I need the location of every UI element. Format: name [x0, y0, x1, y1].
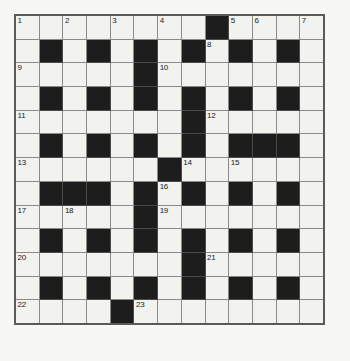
crossword-cell[interactable]	[87, 158, 111, 182]
crossword-cell[interactable]	[205, 229, 229, 253]
crossword-cell[interactable]	[63, 276, 87, 300]
crossword-cell[interactable]	[39, 158, 63, 182]
crossword-cell[interactable]	[110, 158, 134, 182]
crossword-cell[interactable]	[276, 252, 300, 276]
crossword-cell[interactable]	[39, 63, 63, 87]
crossword-cell[interactable]	[63, 300, 87, 324]
crossword-cell[interactable]	[205, 134, 229, 158]
crossword-cell[interactable]	[15, 39, 39, 63]
crossword-cell[interactable]	[63, 252, 87, 276]
crossword-cell[interactable]	[63, 158, 87, 182]
crossword-cell[interactable]	[300, 276, 324, 300]
crossword-cell[interactable]	[205, 158, 229, 182]
crossword-cell[interactable]	[63, 39, 87, 63]
crossword-cell[interactable]	[300, 63, 324, 87]
crossword-cell[interactable]	[39, 300, 63, 324]
crossword-grid[interactable]: 1234567891011121314151617181920212223	[14, 14, 325, 325]
crossword-cell[interactable]	[205, 276, 229, 300]
crossword-cell[interactable]	[110, 229, 134, 253]
crossword-cell[interactable]	[205, 205, 229, 229]
crossword-cell[interactable]	[276, 63, 300, 87]
crossword-cell[interactable]	[15, 134, 39, 158]
crossword-cell[interactable]	[15, 87, 39, 111]
crossword-cell[interactable]	[300, 110, 324, 134]
crossword-cell[interactable]: 7	[300, 15, 324, 39]
crossword-cell[interactable]	[39, 110, 63, 134]
crossword-cell[interactable]	[205, 63, 229, 87]
crossword-cell[interactable]	[300, 87, 324, 111]
crossword-cell[interactable]	[205, 300, 229, 324]
crossword-cell[interactable]	[110, 252, 134, 276]
crossword-cell[interactable]: 3	[110, 15, 134, 39]
crossword-cell[interactable]: 17	[15, 205, 39, 229]
crossword-cell[interactable]: 1	[15, 15, 39, 39]
crossword-cell[interactable]	[276, 158, 300, 182]
crossword-cell[interactable]: 21	[205, 252, 229, 276]
crossword-cell[interactable]	[15, 276, 39, 300]
crossword-cell[interactable]	[87, 15, 111, 39]
crossword-cell[interactable]	[229, 63, 253, 87]
crossword-cell[interactable]: 4	[158, 15, 182, 39]
crossword-cell[interactable]	[158, 39, 182, 63]
crossword-cell[interactable]	[134, 15, 158, 39]
crossword-cell[interactable]: 10	[158, 63, 182, 87]
crossword-cell[interactable]	[110, 181, 134, 205]
crossword-cell[interactable]	[87, 110, 111, 134]
crossword-cell[interactable]	[252, 158, 276, 182]
crossword-cell[interactable]	[229, 205, 253, 229]
crossword-cell[interactable]	[252, 229, 276, 253]
crossword-cell[interactable]	[158, 229, 182, 253]
crossword-cell[interactable]: 18	[63, 205, 87, 229]
crossword-cell[interactable]: 9	[15, 63, 39, 87]
crossword-cell[interactable]	[252, 276, 276, 300]
crossword-cell[interactable]	[181, 205, 205, 229]
crossword-cell[interactable]	[300, 39, 324, 63]
crossword-cell[interactable]	[110, 110, 134, 134]
crossword-cell[interactable]	[300, 158, 324, 182]
crossword-cell[interactable]	[63, 110, 87, 134]
crossword-cell[interactable]: 14	[181, 158, 205, 182]
crossword-cell[interactable]: 16	[158, 181, 182, 205]
crossword-cell[interactable]	[181, 300, 205, 324]
crossword-cell[interactable]	[39, 252, 63, 276]
crossword-cell[interactable]	[134, 110, 158, 134]
crossword-cell[interactable]	[252, 181, 276, 205]
crossword-cell[interactable]	[63, 63, 87, 87]
crossword-cell[interactable]	[63, 134, 87, 158]
crossword-cell[interactable]	[110, 39, 134, 63]
crossword-cell[interactable]	[110, 205, 134, 229]
crossword-cell[interactable]	[39, 15, 63, 39]
crossword-cell[interactable]: 20	[15, 252, 39, 276]
crossword-cell[interactable]	[205, 87, 229, 111]
crossword-cell[interactable]: 8	[205, 39, 229, 63]
crossword-cell[interactable]: 23	[134, 300, 158, 324]
crossword-cell[interactable]: 15	[229, 158, 253, 182]
crossword-cell[interactable]	[252, 87, 276, 111]
crossword-cell[interactable]	[300, 229, 324, 253]
crossword-cell[interactable]	[300, 181, 324, 205]
crossword-cell[interactable]: 13	[15, 158, 39, 182]
crossword-cell[interactable]	[87, 252, 111, 276]
crossword-cell[interactable]	[181, 63, 205, 87]
crossword-cell[interactable]: 5	[229, 15, 253, 39]
crossword-cell[interactable]	[87, 205, 111, 229]
crossword-cell[interactable]	[110, 63, 134, 87]
crossword-cell[interactable]	[63, 87, 87, 111]
crossword-cell[interactable]	[87, 300, 111, 324]
crossword-cell[interactable]	[158, 300, 182, 324]
crossword-cell[interactable]	[252, 252, 276, 276]
crossword-cell[interactable]	[63, 229, 87, 253]
crossword-cell[interactable]: 19	[158, 205, 182, 229]
crossword-cell[interactable]	[252, 300, 276, 324]
crossword-cell[interactable]	[276, 300, 300, 324]
crossword-cell[interactable]: 12	[205, 110, 229, 134]
crossword-cell[interactable]	[15, 181, 39, 205]
crossword-cell[interactable]	[39, 205, 63, 229]
crossword-cell[interactable]	[252, 63, 276, 87]
crossword-cell[interactable]	[158, 110, 182, 134]
crossword-cell[interactable]	[110, 276, 134, 300]
crossword-cell[interactable]	[252, 110, 276, 134]
crossword-cell[interactable]	[181, 15, 205, 39]
crossword-cell[interactable]	[205, 181, 229, 205]
crossword-cell[interactable]: 11	[15, 110, 39, 134]
